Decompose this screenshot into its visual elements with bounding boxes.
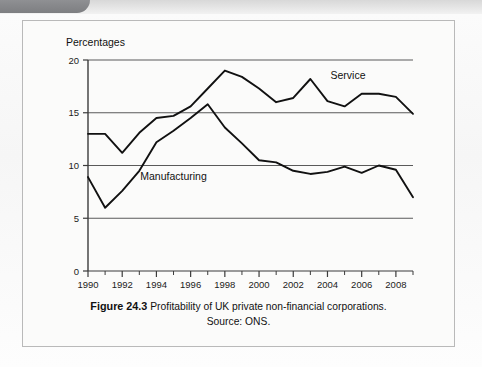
x-axis-tick-labels: 1990199219941996199820002002200420062008 [77, 279, 406, 290]
y-axis-title: Percentages [66, 36, 125, 48]
y-tick-label-10: 10 [68, 160, 79, 171]
series-line-manufacturing [88, 104, 413, 207]
x-tick-label-1998: 1998 [214, 279, 235, 290]
x-tick-label-1996: 1996 [180, 279, 201, 290]
x-tick-label-1990: 1990 [77, 279, 98, 290]
x-tick-label-1992: 1992 [112, 279, 133, 290]
y-axis-tick-labels: 05101520 [68, 55, 79, 277]
series-label-manufacturing: Manufacturing [140, 170, 207, 182]
y-tick-label-5: 5 [74, 213, 79, 224]
chart-plot-area: 05101520 1990199219941996199820002002200… [23, 21, 456, 291]
y-tick-label-15: 15 [68, 107, 79, 118]
page-corner-tab [0, 0, 90, 13]
figure-frame: 05101520 1990199219941996199820002002200… [22, 20, 455, 347]
y-tick-label-0: 0 [74, 266, 79, 277]
series-line-service [88, 71, 413, 153]
y-tick-label-20: 20 [68, 55, 79, 66]
x-tick-label-2004: 2004 [317, 279, 338, 290]
figure-caption: Figure 24.3 Profitability of UK private … [31, 299, 446, 329]
data-series-group [88, 71, 413, 208]
x-tick-label-1994: 1994 [146, 279, 167, 290]
x-tick-label-2008: 2008 [385, 279, 406, 290]
figure-number: Figure 24.3 [90, 300, 147, 312]
x-tick-label-2002: 2002 [283, 279, 304, 290]
series-label-service: Service [330, 69, 365, 81]
x-tick-label-2006: 2006 [351, 279, 372, 290]
y-axis-ticks [83, 60, 88, 271]
profitability-line-chart: 05101520 1990199219941996199820002002200… [23, 21, 456, 293]
figure-source: Source: ONS. [31, 314, 446, 329]
x-tick-label-2000: 2000 [248, 279, 269, 290]
figure-title-text: Profitability of UK private non-financia… [150, 301, 386, 312]
